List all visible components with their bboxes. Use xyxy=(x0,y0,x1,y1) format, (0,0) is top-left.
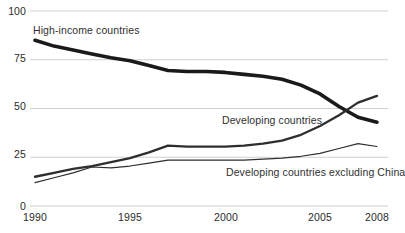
x-axis-tick-1995: 1995 xyxy=(108,211,152,223)
x-axis-tick-2008: 2008 xyxy=(355,211,399,223)
y-axis-tick-75: 75 xyxy=(0,52,26,64)
series-paths xyxy=(35,40,377,182)
series-label-developing: Developing countries xyxy=(222,114,322,126)
x-axis-tick-2000: 2000 xyxy=(204,211,248,223)
y-axis-tick-50: 50 xyxy=(0,100,26,112)
series-label-developing-excluding-china: Developing countries excluding China xyxy=(226,166,405,178)
x-axis-tick-2005: 2005 xyxy=(298,211,342,223)
series-line-developing-countries xyxy=(35,96,377,177)
series-line-high-income-countries xyxy=(35,40,377,122)
series-label-high-income: High-income countries xyxy=(33,24,140,36)
x-axis-tick-1990: 1990 xyxy=(13,211,57,223)
y-axis-tick-25: 25 xyxy=(0,148,26,160)
y-axis-tick-100: 100 xyxy=(0,5,26,17)
